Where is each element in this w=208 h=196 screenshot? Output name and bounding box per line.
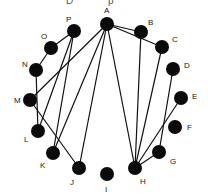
node-label-c: C <box>172 35 178 44</box>
graph-labels: ABCDEFGHIJKLMNOP <box>14 6 197 194</box>
graph-nodes <box>23 17 188 181</box>
node-e <box>174 91 188 105</box>
node-label-n: N <box>22 60 28 69</box>
node-f <box>168 120 182 134</box>
edge-a-k <box>53 24 107 153</box>
node-h <box>128 161 142 175</box>
node-j <box>72 161 86 175</box>
node-label-f: F <box>187 123 192 132</box>
edge-a-h <box>107 24 135 168</box>
node-n <box>29 63 43 77</box>
node-label-i: I <box>105 185 107 194</box>
node-label-j: J <box>70 178 74 187</box>
node-i <box>100 167 114 181</box>
node-o <box>44 41 58 55</box>
edge-a-j <box>79 24 107 168</box>
node-label-e: E <box>192 92 197 101</box>
circular-graph-diagram: ABCDEFGHIJKLMNOP <box>0 0 208 196</box>
node-k <box>46 146 60 160</box>
node-p <box>67 24 81 38</box>
node-m <box>23 93 37 107</box>
node-label-p: P <box>66 15 71 24</box>
node-label-a: A <box>104 6 110 15</box>
node-d <box>166 62 180 76</box>
edge-d-g <box>159 69 173 152</box>
node-l <box>31 124 45 138</box>
node-label-l: L <box>24 135 29 144</box>
node-label-m: M <box>14 96 21 105</box>
node-b <box>134 25 148 39</box>
node-label-d: D <box>184 61 190 70</box>
node-label-g: G <box>170 157 176 166</box>
node-a <box>100 17 114 31</box>
edge-a-c <box>107 24 162 47</box>
node-label-o: O <box>41 32 47 41</box>
node-label-h: H <box>140 177 146 186</box>
node-label-b: B <box>148 18 153 27</box>
node-label-k: K <box>40 161 46 170</box>
node-c <box>155 40 169 54</box>
node-g <box>152 145 166 159</box>
